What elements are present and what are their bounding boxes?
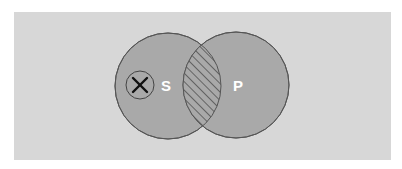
- set-s-label: S: [161, 77, 171, 94]
- venn-diagram: S P: [0, 0, 402, 169]
- set-p-label: P: [233, 77, 243, 94]
